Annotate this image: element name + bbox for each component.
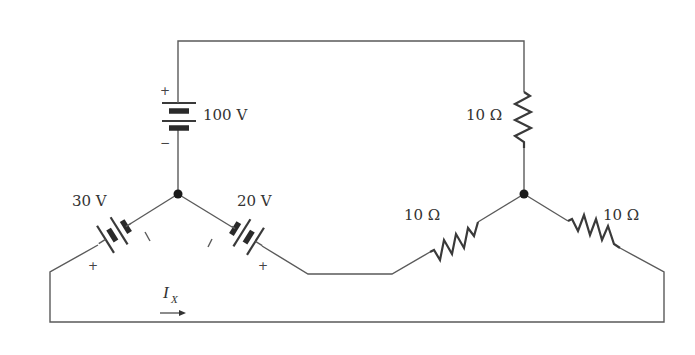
resistor-right: 10 Ω	[524, 194, 639, 248]
battery-left-plus-sign: +	[88, 259, 98, 273]
wire-left-branch	[50, 194, 664, 322]
resistor-right-label: 10 Ω	[603, 206, 639, 224]
resistor-top-right: 10 Ω	[466, 92, 531, 148]
battery-top-minus-sign: −	[160, 136, 170, 150]
junction-node-left	[174, 190, 183, 199]
resistor-middle: 10 Ω	[404, 206, 478, 260]
current-subscript: X	[170, 293, 179, 305]
battery-middle-plus-sign: +	[258, 259, 268, 273]
circuit-diagram: + − 100 V 10 Ω 30 V + 20 V +	[0, 0, 695, 355]
current-indicator: I X	[160, 283, 186, 316]
junction-node-right	[520, 190, 529, 199]
battery-left	[90, 210, 139, 257]
arrow-head-icon	[179, 310, 186, 316]
battery-middle-label: 20 V	[237, 192, 273, 210]
battery-left-label: 30 V	[72, 192, 108, 210]
battery-top: + − 100 V	[160, 84, 248, 150]
resistor-middle-label: 10 Ω	[404, 206, 440, 224]
battery-top-plus-sign: +	[160, 84, 170, 98]
battery-left-minus-sign	[145, 232, 150, 241]
battery-top-label: 100 V	[203, 106, 248, 124]
current-symbol: I	[162, 283, 170, 302]
battery-middle	[223, 213, 270, 259]
resistor-top-right-label: 10 Ω	[466, 106, 502, 124]
battery-middle-minus-sign	[208, 239, 212, 247]
